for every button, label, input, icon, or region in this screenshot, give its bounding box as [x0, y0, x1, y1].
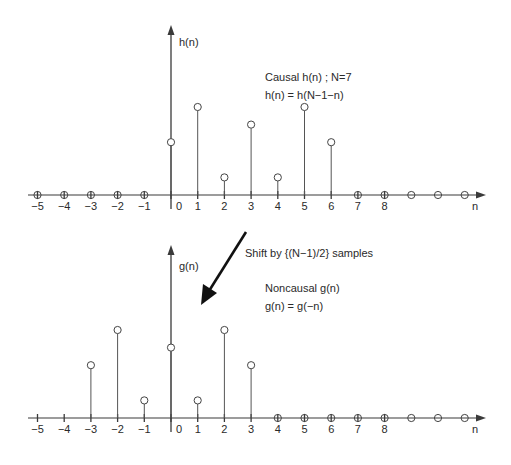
upper-tick-label: −5	[31, 200, 44, 212]
upper-tick-label: 5	[301, 200, 307, 212]
lower-tick-label: 8	[382, 423, 388, 435]
lower-y-axis-label: g(n)	[179, 260, 199, 272]
lower-tick-label: 5	[301, 423, 307, 435]
upper-x-axis-label: n	[472, 200, 478, 212]
lower-stem-marker	[248, 362, 255, 369]
lower-stem-marker	[87, 362, 94, 369]
upper-tick-label: 2	[221, 200, 227, 212]
upper-stem-marker	[194, 103, 201, 110]
upper-x-axis-arrow-icon	[476, 192, 486, 199]
upper-y-axis-arrow-icon	[168, 25, 175, 35]
symmetry-annotation-g: g(n) = g(−n)	[265, 300, 323, 312]
lower-stem-marker	[221, 326, 228, 333]
lower-tick-label: −2	[111, 423, 124, 435]
upper-stem-marker	[328, 139, 335, 146]
upper-tick-label: −3	[85, 200, 98, 212]
lower-tick-label: −1	[138, 423, 151, 435]
upper-y-axis-label: h(n)	[179, 36, 199, 48]
lower-tick-label: 3	[248, 423, 254, 435]
lower-tick-label: −4	[58, 423, 71, 435]
upper-tick-label: −2	[111, 200, 124, 212]
lower-tick-label: 2	[221, 423, 227, 435]
lower-tick-label: 7	[355, 423, 361, 435]
causal-annotation: Causal h(n) ; N=7	[265, 71, 352, 83]
upper-tick-label: 3	[248, 200, 254, 212]
shift-arrow-label: Shift by {(N−1)/2} samples	[245, 247, 373, 259]
upper-tick-label: −1	[138, 200, 151, 212]
lower-x-axis-arrow-icon	[476, 415, 486, 422]
lower-stem-marker	[114, 326, 121, 333]
upper-tick-label: −4	[58, 200, 71, 212]
upper-stem-marker	[301, 103, 308, 110]
lower-tick-label: 1	[195, 423, 201, 435]
upper-tick-label: 6	[328, 200, 334, 212]
lower-x-axis-label: n	[472, 423, 478, 435]
lower-tick-label: −5	[31, 423, 44, 435]
upper-tick-label: 7	[355, 200, 361, 212]
shift-arrow	[209, 232, 246, 291]
symmetry-annotation-h: h(n) = h(N−1−n)	[265, 89, 344, 101]
upper-stem-marker	[274, 174, 281, 181]
upper-stem-marker	[221, 174, 228, 181]
upper-tick-label: 4	[275, 200, 281, 212]
lower-stem-marker	[194, 397, 201, 404]
lower-tick-label: 6	[328, 423, 334, 435]
lower-tick-label: 4	[275, 423, 281, 435]
lower-y-axis-arrow-icon	[168, 245, 175, 255]
stem-plots-figure	[0, 0, 511, 465]
upper-stem-marker	[248, 121, 255, 128]
upper-tick-label: 8	[382, 200, 388, 212]
lower-tick-label: 0	[176, 423, 182, 435]
upper-tick-label: 1	[195, 200, 201, 212]
upper-stem-marker	[167, 139, 174, 146]
shift-arrow-head-icon	[201, 284, 217, 305]
lower-stem-marker	[167, 344, 174, 351]
noncausal-annotation: Noncausal g(n)	[265, 282, 340, 294]
upper-tick-label: 0	[176, 200, 182, 212]
lower-stem-marker	[141, 397, 148, 404]
lower-tick-label: −3	[85, 423, 98, 435]
